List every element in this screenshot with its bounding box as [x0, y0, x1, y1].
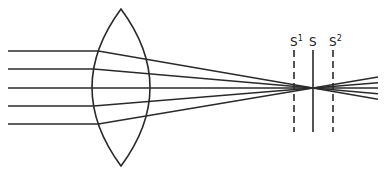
- diverging-ray: [313, 77, 378, 88]
- light-rays: [8, 51, 378, 124]
- diverging-ray: [313, 83, 378, 88]
- refracted-ray: [94, 88, 313, 106]
- refracted-ray: [98, 88, 313, 124]
- refracted-ray: [94, 69, 313, 88]
- focal-planes: S1SS2: [290, 34, 342, 132]
- diverging-ray: [313, 88, 378, 94]
- plane-label-s: S: [309, 35, 317, 49]
- diverging-ray: [313, 88, 378, 99]
- plane-label-s2: S2: [329, 34, 342, 49]
- plane-label-s1: S1: [290, 34, 303, 49]
- lens-diagram: S1SS2: [0, 0, 385, 172]
- refracted-ray: [98, 51, 313, 88]
